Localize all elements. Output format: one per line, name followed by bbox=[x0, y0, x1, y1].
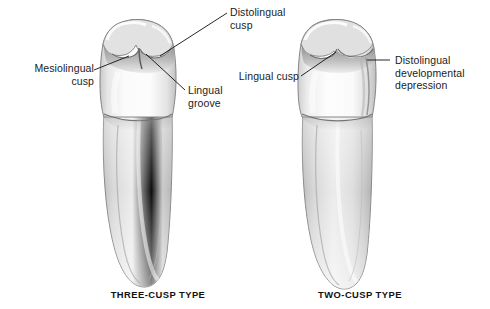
label-distolingual-developmental-depression: Distolingual developmental depression bbox=[395, 54, 490, 92]
right-tooth-two-cusp bbox=[298, 20, 376, 290]
leader-distolingual-cusp bbox=[160, 13, 227, 56]
left-tooth-three-cusp bbox=[100, 20, 176, 288]
label-lingual-cusp: Lingual cusp bbox=[221, 70, 299, 83]
label-lingual-groove: Lingual groove bbox=[188, 84, 258, 109]
tooth-illustrations bbox=[0, 0, 490, 309]
label-distolingual-cusp: Distolingual cusp bbox=[230, 6, 320, 31]
dental-anatomy-figure: Mesiolingual cusp Distolingual cusp Ling… bbox=[0, 0, 490, 309]
label-mesiolingual-cusp: Mesiolingual cusp bbox=[14, 62, 94, 87]
caption-three-cusp-type: THREE-CUSP TYPE bbox=[98, 289, 218, 300]
caption-two-cusp-type: TWO-CUSP TYPE bbox=[300, 289, 420, 300]
